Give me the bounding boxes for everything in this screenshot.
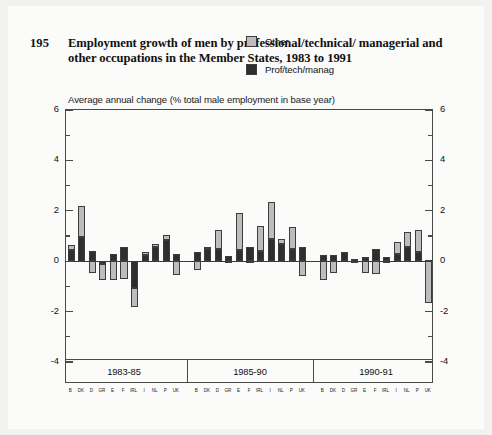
bar-segment-other (257, 226, 264, 251)
screenshot-page: 195 Employment growth of men by professi… (0, 0, 492, 435)
bar-segment-other (394, 242, 401, 253)
bar-segment-other (268, 202, 275, 239)
bar-segment-prof (194, 252, 201, 261)
country-label-1990-91-E: E (359, 386, 370, 396)
bar-1983-85-IRL (131, 110, 138, 362)
country-label-1983-85-P: P (160, 386, 171, 396)
y-axis-label-left-5: -4 (41, 356, 59, 365)
bar-segment-prof (404, 247, 411, 261)
bar-1983-85-NL (152, 110, 159, 362)
country-label-1983-85-NL: NL (149, 386, 160, 396)
country-label-1985-90-E: E (233, 386, 244, 396)
y-axis-label-left-4: -2 (41, 306, 59, 315)
bar-segment-other (89, 261, 96, 272)
bar-segment-other (236, 213, 243, 250)
bar-segment-prof (289, 249, 296, 262)
country-label-1985-90-F: F (244, 386, 255, 396)
bar-1985-90-GR (225, 110, 232, 362)
bar-segment-prof (120, 247, 127, 261)
country-label-1985-90-GR: GR (223, 386, 234, 396)
country-label-1990-91-B: B (317, 386, 328, 396)
bar-segment-other (351, 261, 358, 263)
bar-1983-85-F (120, 110, 127, 362)
y-axis-label-left-1: 4 (41, 154, 59, 163)
country-label-1990-91-P: P (412, 386, 423, 396)
country-label-1983-85-DK: DK (76, 386, 87, 396)
bar-1985-90-DK (204, 110, 211, 362)
period-axis-band: 1983-851985-901990-91 (66, 359, 432, 382)
bar-1985-90-F (246, 110, 253, 362)
y-axis-label-right-3: 0 (440, 255, 458, 264)
country-label-1990-91-F: F (370, 386, 381, 396)
bar-1983-85-GR (99, 110, 106, 362)
bar-segment-other (110, 261, 117, 280)
bar-segment-prof (299, 247, 306, 261)
bar-1985-90-I (268, 110, 275, 362)
bar-segment-other (173, 261, 180, 275)
bar-1985-90-NL (278, 110, 285, 362)
chart-legend: Other Prof/tech/manag (246, 33, 334, 89)
bar-1990-91-IRL (383, 110, 390, 362)
bar-1990-91-NL (404, 110, 411, 362)
bar-segment-prof (78, 237, 85, 261)
bar-segment-prof (173, 254, 180, 262)
bar-segment-other (362, 261, 369, 272)
legend-item-other: Other (246, 33, 334, 49)
country-label-1990-91-NL: NL (401, 386, 412, 396)
bar-segment-prof (257, 251, 264, 261)
bar-1983-85-E (110, 110, 117, 362)
bar-1990-91-D (341, 110, 348, 362)
bar-segment-other (330, 261, 337, 272)
bar-segment-other (99, 264, 106, 280)
bar-segment-prof (131, 261, 138, 287)
bar-1983-85-D (89, 110, 96, 362)
country-label-1990-91-D: D (338, 386, 349, 396)
country-label-1983-85-F: F (118, 386, 129, 396)
bar-1983-85-B (68, 110, 75, 362)
country-label-1990-91-I: I (391, 386, 402, 396)
y-axis-label-left-3: 0 (41, 255, 59, 264)
country-label-1983-85-B: B (65, 386, 76, 396)
period-label-1985-90: 1985-90 (192, 360, 308, 382)
bar-1983-85-I (142, 110, 149, 362)
y-axis-label-left-2: 2 (41, 205, 59, 214)
bar-segment-prof (372, 249, 379, 262)
bar-1990-91-UK (425, 110, 432, 362)
country-label-1983-85-GR: GR (97, 386, 108, 396)
y-axis-label-right-4: -2 (440, 306, 458, 315)
bar-1985-90-P (289, 110, 296, 362)
country-label-1985-90-IRL: IRL (254, 386, 265, 396)
bar-segment-prof (341, 252, 348, 261)
country-label-1990-91-UK: UK (422, 386, 433, 396)
bar-segment-prof (142, 255, 149, 261)
period-label-1983-85: 1983-85 (66, 360, 182, 382)
bar-segment-other (320, 261, 327, 280)
bar-segment-other (68, 245, 75, 250)
country-label-1983-85-IRL: IRL (128, 386, 139, 396)
bar-1990-91-I (394, 110, 401, 362)
bar-segment-prof (236, 250, 243, 261)
country-label-1985-90-P: P (286, 386, 297, 396)
bar-segment-prof (394, 254, 401, 262)
bar-1985-90-E (236, 110, 243, 362)
bar-1983-85-DK (78, 110, 85, 362)
country-label-1985-90-DK: DK (202, 386, 213, 396)
bar-1985-90-D (215, 110, 222, 362)
bar-segment-prof (268, 239, 275, 262)
bar-segment-other (204, 247, 211, 249)
bar-segment-other (404, 232, 411, 247)
legend-label-prof: Prof/tech/manag (265, 64, 334, 75)
country-tick-labels: BDKDGREFIRLINLPUKBDKDGREFIRLINLPUKBDKDGR… (65, 386, 433, 398)
country-label-1983-85-I: I (139, 386, 150, 396)
country-label-1985-90-I: I (265, 386, 276, 396)
period-separator-2 (313, 360, 314, 382)
legend-item-prof: Prof/tech/manag (246, 61, 334, 77)
bar-segment-other (372, 261, 379, 274)
bar-1985-90-IRL (257, 110, 264, 362)
bar-segment-prof (278, 244, 285, 262)
country-label-1983-85-UK: UK (170, 386, 181, 396)
y-axis-label-right-0: 6 (440, 104, 458, 113)
bar-segment-other (225, 261, 232, 263)
country-label-1983-85-E: E (107, 386, 118, 396)
bar-series-container (66, 110, 432, 382)
